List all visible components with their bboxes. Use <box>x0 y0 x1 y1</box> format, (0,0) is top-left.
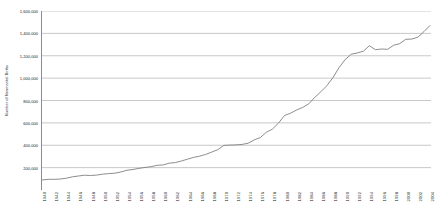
gridlines <box>41 11 431 168</box>
x-tick-label: 1986 <box>321 192 326 201</box>
y-tick-label: 200,000 <box>23 165 38 170</box>
x-tick-label: 1950 <box>103 192 108 201</box>
y-tick-label: 1,000,000 <box>20 76 38 81</box>
x-tick-label: 1990 <box>345 192 350 201</box>
y-tick-label: 600,000 <box>23 120 38 125</box>
x-tick-label: 1956 <box>139 192 144 201</box>
line-chart-svg <box>41 11 431 190</box>
x-tick-label: 1980 <box>285 192 290 201</box>
x-tick-label: 1972 <box>236 192 241 201</box>
x-tick-label: 1976 <box>260 192 265 201</box>
x-tick-label: 1984 <box>309 192 314 201</box>
x-tick-label: 2004 <box>430 192 435 201</box>
x-tick-label: 1968 <box>212 192 217 201</box>
x-tick-label: 1978 <box>272 192 277 201</box>
x-tick-label: 2002 <box>418 192 423 201</box>
x-tick-label: 1992 <box>357 192 362 201</box>
x-tick-label: 1966 <box>200 192 205 201</box>
data-series-line <box>42 26 430 180</box>
x-tick-label: 1962 <box>175 192 180 201</box>
x-tick-label: 1960 <box>163 192 168 201</box>
plot-area <box>41 11 431 190</box>
x-axis-tick-labels: 1940194219441946194819501952195419561958… <box>41 191 431 214</box>
x-tick-label: 1998 <box>394 192 399 201</box>
x-tick-label: 1970 <box>224 192 229 201</box>
x-tick-label: 1946 <box>78 192 83 201</box>
y-tick-label: 1,600,000 <box>20 9 38 14</box>
x-tick-label: 1952 <box>115 192 120 201</box>
x-tick-label: 1982 <box>297 192 302 201</box>
x-tick-label: 1944 <box>66 192 71 201</box>
y-tick-label: 800,000 <box>23 98 38 103</box>
x-tick-label: 1974 <box>248 192 253 201</box>
x-tick-label: 1954 <box>127 192 132 201</box>
x-tick-label: 1958 <box>151 192 156 201</box>
y-tick-label: 1,400,000 <box>20 31 38 36</box>
x-tick-label: 1994 <box>369 192 374 201</box>
y-tick-label: 1,200,000 <box>20 53 38 58</box>
x-tick-label: 1988 <box>333 192 338 201</box>
y-axis-title-label: Number of Nonmarital Births <box>5 64 10 115</box>
y-axis-tick-labels: 200,000400,000600,000800,0001,000,0001,2… <box>11 0 40 214</box>
x-tick-label: 1940 <box>42 192 47 201</box>
y-tick-label: 400,000 <box>23 143 38 148</box>
x-tick-label: 1996 <box>382 192 387 201</box>
x-tick-label: 2000 <box>406 192 411 201</box>
x-tick-label: 1964 <box>188 192 193 201</box>
x-tick-label: 1948 <box>91 192 96 201</box>
x-tick-label: 1942 <box>54 192 59 201</box>
